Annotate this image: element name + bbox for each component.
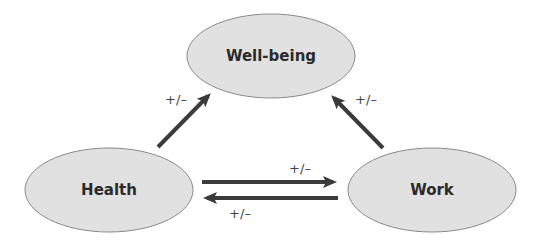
work-label: Work — [410, 181, 455, 199]
edge-health-to-work: +/– — [202, 161, 333, 182]
edge-work-to-wellbeing: +/– — [334, 92, 383, 148]
edge-work-to-health: +/– — [207, 198, 338, 221]
diagram-canvas: Well-being Health Work +/– +/– +/– +/– — [0, 0, 545, 243]
node-health: Health — [25, 148, 193, 232]
node-wellbeing: Well-being — [187, 14, 355, 98]
edge-label-work-health: +/– — [229, 206, 251, 221]
edge-health-to-wellbeing: +/– — [158, 92, 208, 147]
health-label: Health — [81, 181, 137, 199]
edge-label-health-wellbeing: +/– — [165, 92, 187, 107]
edge-label-work-wellbeing: +/– — [355, 92, 377, 107]
node-work: Work — [348, 148, 516, 232]
wellbeing-label: Well-being — [226, 47, 316, 65]
edge-label-health-work: +/– — [289, 161, 311, 176]
